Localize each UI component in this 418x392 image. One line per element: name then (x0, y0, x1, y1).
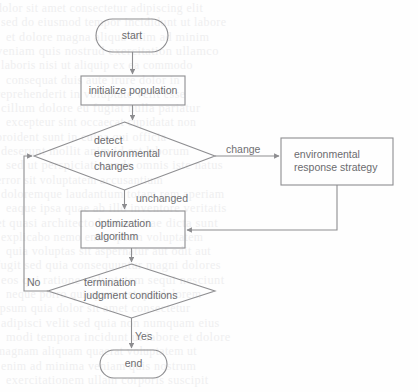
node-optimize-label-group: optimization algorithm (95, 217, 151, 243)
edge-label-no: No (27, 276, 40, 288)
node-detect-label-group: detect environmental changes (94, 134, 160, 173)
node-response-label-group: environmental response strategy (294, 148, 377, 174)
node-initialize-population-label: initialize population (81, 84, 185, 97)
node-terminate-label-group: termination judgment conditions (84, 276, 177, 302)
node-detect-label-line1: detect (94, 134, 160, 147)
flowchart-page: dolor sit amet consectetur adipiscing el… (0, 0, 418, 392)
node-detect-label-line2: environmental (94, 147, 160, 160)
edge-response-to-optimize-feedback (187, 185, 337, 230)
edge-label-change: change (226, 143, 260, 155)
node-terminate-label-line1: termination (84, 276, 177, 289)
node-detect-label-line3: changes (94, 160, 160, 173)
node-response-label-line2: response strategy (294, 161, 377, 174)
node-end-label: end (100, 357, 167, 370)
node-terminate-label-line2: judgment conditions (84, 289, 177, 302)
node-response-label-line1: environmental (294, 148, 377, 161)
edge-terminate-to-detect-no (24, 156, 48, 291)
node-optimize-label-line2: algorithm (95, 230, 151, 243)
flowchart-canvas (0, 0, 418, 392)
node-optimize-label-line1: optimization (95, 217, 151, 230)
edge-label-unchanged: unchanged (136, 192, 188, 204)
node-start-label: start (96, 29, 168, 42)
edge-label-yes: Yes (135, 330, 152, 342)
